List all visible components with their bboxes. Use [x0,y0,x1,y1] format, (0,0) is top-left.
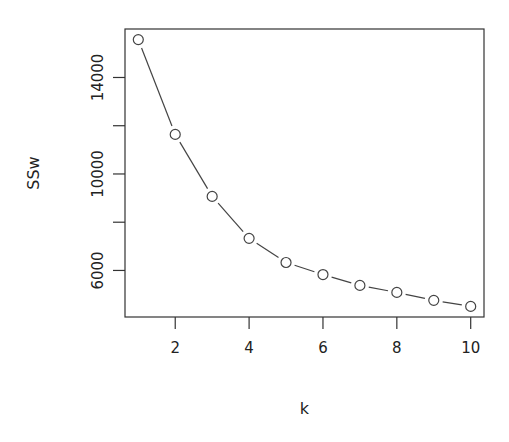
elbow-chart: 60001000014000 246810 k SSw [0,0,509,442]
data-series [133,35,475,312]
data-point-marker [392,287,402,297]
data-point-marker [207,191,217,201]
series-segment [218,203,243,231]
x-tick-label: 2 [170,339,180,357]
data-point-marker [318,270,328,280]
x-tick-label: 10 [461,339,480,357]
data-point-marker [244,233,254,243]
data-point-marker [355,280,365,290]
x-tick-label: 4 [244,339,254,357]
x-axis: 246810 [170,317,480,357]
series-segment [443,302,462,305]
series-segment [142,48,172,126]
y-axis: 60001000014000 [89,54,125,290]
series-segment [257,243,279,257]
x-axis-title: k [300,399,310,418]
data-point-marker [170,129,180,139]
y-tick-label: 6000 [89,251,107,289]
series-segment [295,265,315,271]
data-point-marker [281,257,291,267]
x-tick-label: 8 [392,339,402,357]
data-point-marker [429,295,439,305]
y-tick-label: 14000 [89,54,107,102]
series-segment [369,287,388,291]
series-segment [406,294,425,298]
data-point-marker [133,35,143,45]
y-tick-label: 10000 [89,150,107,198]
plot-box [125,29,484,317]
y-axis-title: SSw [24,156,43,189]
series-segment [180,142,208,189]
series-segment [332,277,352,283]
x-tick-label: 6 [318,339,328,357]
data-point-marker [466,301,476,311]
